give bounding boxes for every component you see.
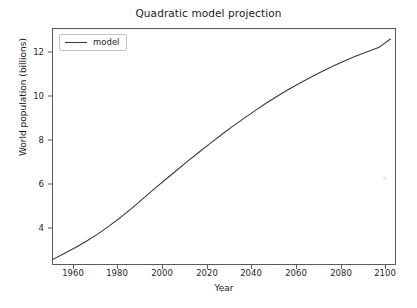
model-line <box>53 39 390 259</box>
y-axis-label: World population (billions) <box>18 2 28 192</box>
x-tick-label: 2080 <box>321 268 361 278</box>
x-tick-label: 2000 <box>142 268 182 278</box>
x-tick-label: 2060 <box>276 268 316 278</box>
series-plot <box>53 29 395 264</box>
x-tick-label: 2040 <box>231 268 271 278</box>
x-axis-label: Year <box>52 283 396 293</box>
render-artifact-dot <box>383 177 386 180</box>
legend-label: model <box>93 38 119 47</box>
x-tick-label: 2020 <box>187 268 227 278</box>
legend: model <box>59 34 127 51</box>
y-tick-label: 4 <box>0 223 44 233</box>
x-tick-label: 1980 <box>97 268 137 278</box>
x-tick-label: 2100 <box>365 268 405 278</box>
x-tick-label: 1960 <box>53 268 93 278</box>
legend-line-swatch <box>65 42 87 43</box>
plot-area: model <box>52 28 396 265</box>
chart-figure: Quadratic model projection 12 10 8 6 4 1… <box>0 0 417 308</box>
chart-title: Quadratic model projection <box>0 7 417 19</box>
